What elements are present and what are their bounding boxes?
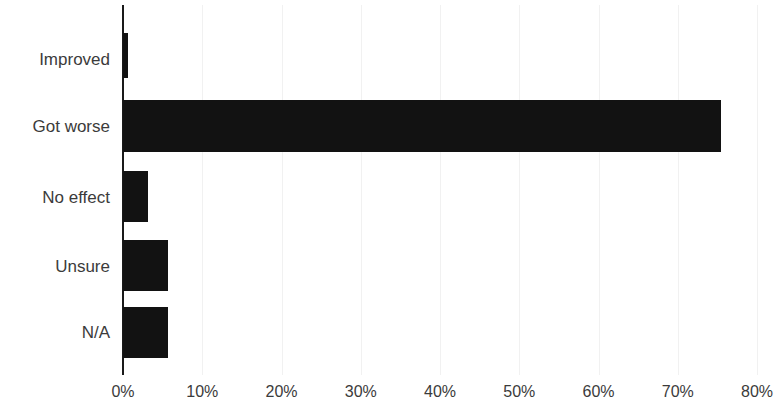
x-tick-label: 50% — [503, 382, 535, 402]
x-tick-label: 80% — [741, 382, 773, 402]
x-tick-label: 20% — [265, 382, 297, 402]
gridline — [757, 5, 758, 375]
bars-layer — [123, 0, 757, 409]
x-axis-labels: 0% 10% 20% 30% 40% 50% 60% 70% 80% — [0, 382, 778, 406]
bar-no-effect — [123, 171, 148, 222]
category-label-na: N/A — [10, 323, 122, 343]
table-row — [123, 33, 757, 78]
table-row — [123, 171, 757, 222]
x-tick-label: 10% — [186, 382, 218, 402]
y-axis-labels: Improved Got worse No effect Unsure N/A — [0, 0, 122, 409]
bar-got-worse — [123, 100, 721, 152]
table-row — [123, 240, 757, 291]
table-row — [123, 100, 757, 152]
x-tick-label: 30% — [345, 382, 377, 402]
x-tick-label: 70% — [662, 382, 694, 402]
bar-na — [123, 307, 168, 358]
category-label-no-effect: No effect — [10, 188, 122, 208]
table-row — [123, 307, 757, 358]
category-label-got-worse: Got worse — [10, 117, 122, 137]
x-tick-label: 60% — [582, 382, 614, 402]
x-tick-label: 40% — [424, 382, 456, 402]
bar-improved — [123, 33, 128, 78]
category-label-unsure: Unsure — [10, 257, 122, 277]
bar-unsure — [123, 240, 168, 291]
bar-chart: Improved Got worse No effect Unsure N/A … — [0, 0, 778, 409]
x-tick-label: 0% — [111, 382, 134, 402]
category-label-improved: Improved — [10, 50, 122, 70]
